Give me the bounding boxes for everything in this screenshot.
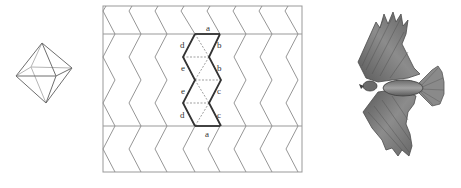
edge-label-right-1: b xyxy=(217,40,222,50)
bird-icon xyxy=(340,0,461,188)
zigzag-tiling-figure: a d e e d b b c c a xyxy=(95,0,340,188)
edge-label-right-2: b xyxy=(217,63,222,73)
edge-label-right-3: c xyxy=(217,86,221,96)
edge-label-left-1: d xyxy=(180,40,185,50)
octahedron-figure xyxy=(0,0,90,188)
octahedron-icon xyxy=(0,0,90,188)
edge-label-top: a xyxy=(206,23,210,33)
edge-label-left-2: e xyxy=(181,63,185,73)
edge-label-left-3: e xyxy=(181,86,185,96)
edge-label-left-4: d xyxy=(180,110,185,120)
bird-figure xyxy=(340,0,461,188)
tiling-diagram: a d e e d b b c c a xyxy=(95,0,340,188)
edge-label-right-4: c xyxy=(217,110,221,120)
edge-label-bottom: a xyxy=(205,129,209,139)
